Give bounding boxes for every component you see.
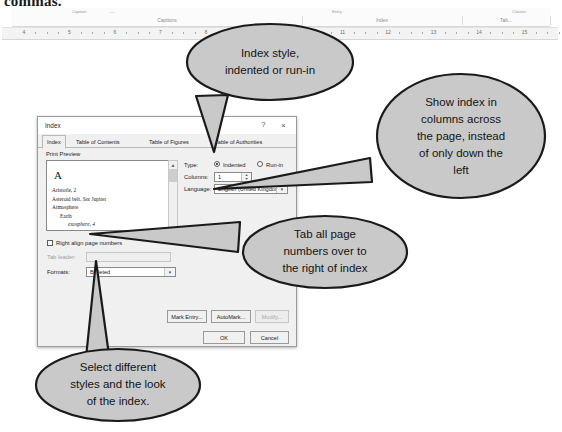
ruler-tick (126, 32, 127, 34)
callout-columns-across-text: Show index incolumns acrossthe page, ins… (386, 94, 536, 179)
automark-button[interactable]: AutoMark... (211, 310, 251, 323)
ruler-number-11: 11 (340, 29, 345, 35)
callout-line: indented or run-in (190, 62, 350, 79)
ruler-tick (536, 32, 537, 34)
ribbon-group-index: Index (302, 16, 463, 25)
cancel-button[interactable]: Cancel (250, 331, 289, 344)
print-preview-scrollbar[interactable]: ▲ ▼ (168, 160, 178, 233)
radio-run-in[interactable] (257, 161, 263, 167)
ruler-tick (411, 32, 412, 34)
ruler-tick (547, 32, 548, 34)
ruler-tick (58, 32, 59, 34)
ruler-tick (377, 32, 378, 34)
dialog-tabstrip[interactable]: IndexTable of ContentsTable of FiguresTa… (38, 134, 296, 148)
ruler-number-10: 10 (294, 29, 300, 35)
ok-button[interactable]: OK (203, 331, 245, 344)
preview-line: Asteroid belt. See Jupiter (52, 196, 106, 202)
callout-line: columns across (386, 111, 536, 128)
ruler-number-7: 7 (159, 29, 162, 35)
callout-select-styles-text: Select differentstyles and the lookof th… (43, 359, 193, 410)
ruler-tick (240, 32, 241, 34)
formats-value: Bulleted (90, 269, 110, 275)
spinner-down-icon[interactable]: ▼ (242, 177, 251, 181)
ruler-number-4: 4 (23, 29, 26, 35)
ruler-tick (47, 32, 48, 34)
ruler-tick (263, 32, 264, 34)
ruler-tick (274, 32, 275, 34)
radio-indented[interactable] (214, 161, 220, 167)
close-icon[interactable]: × (278, 121, 289, 130)
columns-label: Columns: (184, 174, 208, 180)
preview-line: exosphere, 4 (68, 221, 95, 227)
ruler-tick (104, 32, 105, 34)
preview-line: Aristotle, 2 (52, 187, 76, 193)
ruler-number-14: 14 (476, 29, 482, 35)
columns-spinner[interactable]: 1 ▲ ▼ (214, 172, 252, 182)
language-value: English (United Kingdom) (218, 186, 281, 192)
ribbon-icon-row: Caption—EntryCitation (12, 8, 550, 16)
ribbon-mini-label-2[interactable]: Entry (332, 9, 342, 14)
ruler-tick (149, 32, 150, 34)
dialog-body: Print Preᴠiew A Aristotle, 2Asteroid bel… (38, 147, 296, 346)
ruler-number-5: 5 (68, 29, 71, 35)
ruler-tick (490, 32, 491, 34)
scroll-up-icon[interactable]: ▲ (169, 161, 177, 169)
ribbon-group-row: CaptionsIndexTab... (12, 16, 550, 26)
ruler-tick (320, 32, 321, 34)
radio-indented-label[interactable]: Indented (223, 162, 246, 168)
dialog-title: Index (45, 122, 61, 129)
ruler-number-9: 9 (250, 29, 253, 35)
ribbon-mini-label-3[interactable]: Citation (512, 9, 526, 14)
ruler-tick (81, 32, 82, 34)
callout-line: Show index in (386, 94, 536, 111)
language-combo[interactable]: English (United Kingdom) ▼ (214, 184, 288, 194)
callout-index-style-text: Index style,indented or run-in (190, 45, 350, 79)
scrollbar-thumb[interactable] (169, 169, 177, 182)
ruler-number-13: 13 (431, 29, 437, 35)
mark-entry-button[interactable]: Mark Entry... (167, 310, 207, 323)
callout-line: of only down the (386, 145, 536, 162)
chevron-down-icon[interactable]: ▼ (164, 268, 175, 276)
ruler-tick (229, 32, 230, 34)
dialog-titlebar: Index ? × (38, 117, 296, 135)
screenshot-root: commas. Caption—EntryCitation CaptionsIn… (0, 0, 562, 432)
print-preview-label: Print Preᴠiew (46, 151, 80, 157)
ruler-tick (365, 32, 366, 34)
ruler-tick (172, 32, 173, 34)
index-dialog[interactable]: Index ? × IndexTable of ContentsTable of… (37, 116, 297, 347)
ruler-tick (183, 32, 184, 34)
formats-combo[interactable]: Bulleted ▼ (86, 267, 176, 277)
ruler-number-8: 8 (205, 29, 208, 35)
columns-spinner-buttons[interactable]: ▲ ▼ (241, 173, 251, 181)
callout-line: left (386, 162, 536, 179)
ruler-number-12: 12 (385, 29, 391, 35)
ribbon-group-captions: Captions (32, 16, 303, 25)
preview-line: Atmosphere (52, 204, 78, 210)
ruler-tick (354, 32, 355, 34)
preview-heading-letter: A (54, 169, 62, 181)
ruler-tick (92, 32, 93, 34)
chevron-down-icon[interactable]: ▼ (276, 185, 287, 193)
right-align-label[interactable]: Right align page numbers (56, 240, 122, 246)
radio-run-in-label[interactable]: Run-in (266, 162, 283, 168)
ruler-scale: 456789101112131415 (2, 28, 558, 39)
type-label: Type: (184, 162, 198, 168)
ruler-tick (445, 32, 446, 34)
ruler-tick (217, 32, 218, 34)
help-icon[interactable]: ? (258, 121, 269, 128)
ruler-tick (195, 32, 196, 34)
right-align-checkbox[interactable] (47, 240, 53, 246)
horizontal-ruler[interactable]: 456789101112131415 (2, 27, 558, 40)
formats-label: Formats: (47, 269, 70, 275)
ribbon-mini-label-1[interactable]: — (110, 9, 114, 14)
ruler-tick (308, 32, 309, 34)
ruler-tick (138, 32, 139, 34)
ruler-tick (456, 32, 457, 34)
ribbon-mini-label-0[interactable]: Caption (72, 9, 86, 14)
scroll-down-icon[interactable]: ▼ (169, 224, 177, 232)
callout-line: of the index. (43, 393, 193, 410)
ruler-tick (422, 32, 423, 34)
ruler-tick (468, 32, 469, 34)
tab-leader-label: Tab leader: (47, 254, 76, 260)
ruler-tick (286, 32, 287, 34)
